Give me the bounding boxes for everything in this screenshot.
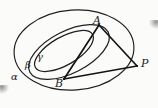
figure-canvas xyxy=(0,0,158,108)
geometry-figure: α β γ A B P xyxy=(0,0,158,108)
label-point-b: B xyxy=(55,78,63,89)
ellipse-alpha xyxy=(11,6,136,94)
segment-a-p xyxy=(99,25,137,66)
label-plane-gamma: γ xyxy=(37,52,43,62)
label-plane-beta: β xyxy=(25,60,31,70)
point-b-marker xyxy=(63,78,65,80)
label-point-p: P xyxy=(141,58,148,69)
point-p-marker xyxy=(136,65,138,67)
label-plane-alpha: α xyxy=(11,72,18,82)
label-point-a: A xyxy=(93,15,101,26)
ellipse-beta xyxy=(20,13,117,90)
